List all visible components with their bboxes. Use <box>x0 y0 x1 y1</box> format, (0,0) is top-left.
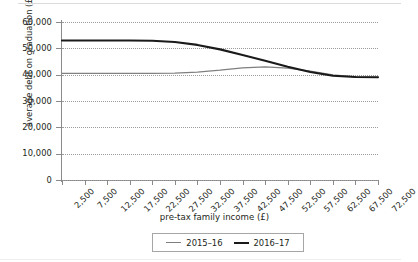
x-tick-32500 <box>197 180 198 185</box>
x-tick-52500 <box>288 180 289 185</box>
plot-area <box>62 22 378 180</box>
x-tick-label-57500: 57,500 <box>322 186 350 214</box>
y-tick-label-20000: 20,000 <box>0 122 52 132</box>
legend-label-1: 2016–17 <box>254 238 290 248</box>
x-tick-label-62500: 62,500 <box>345 186 373 214</box>
x-tick-label-47500: 47,500 <box>277 186 305 214</box>
x-tick-22500 <box>152 180 153 185</box>
y-tick-label-40000: 40,000 <box>0 69 52 79</box>
x-tick-57500 <box>310 180 311 185</box>
x-tick-67500 <box>355 180 356 185</box>
legend-item-0[interactable]: 2015–16 <box>166 238 222 248</box>
x-tick-label-7500: 7,500 <box>95 186 119 210</box>
x-tick-label-22500: 22,500 <box>164 186 192 214</box>
x-tick-72500 <box>378 180 379 185</box>
x-tick-27500 <box>175 180 176 185</box>
x-tick-label-27500: 27,500 <box>187 186 215 214</box>
x-tick-label-37500: 37,500 <box>232 186 260 214</box>
y-tick-label-0: 0 <box>0 175 52 185</box>
x-tick-label-72500: 72,500 <box>390 186 418 214</box>
x-tick-7500 <box>85 180 86 185</box>
x-tick-12500 <box>107 180 108 185</box>
legend-label-0: 2015–16 <box>186 238 222 248</box>
x-tick-47500 <box>265 180 266 185</box>
legend-item-1[interactable]: 2016–17 <box>234 238 290 248</box>
page-scan-artifact-top <box>18 3 401 4</box>
x-tick-label-2500: 2,500 <box>72 186 96 210</box>
x-tick-label-67500: 67,500 <box>367 186 395 214</box>
x-tick-label-42500: 42,500 <box>254 186 282 214</box>
x-tick-label-12500: 12,500 <box>119 186 147 214</box>
legend: 2015–16 2016–17 <box>152 233 304 252</box>
series-layer <box>62 22 378 180</box>
x-tick-42500 <box>243 180 244 185</box>
y-tick-label-30000: 30,000 <box>0 96 52 106</box>
x-tick-label-17500: 17,500 <box>141 186 169 214</box>
legend-line-icon-1 <box>234 242 249 244</box>
y-tick-label-10000: 10,000 <box>0 148 52 158</box>
series-line-2016-17 <box>62 40 378 77</box>
x-tick-17500 <box>130 180 131 185</box>
x-axis-title: pre-tax family income (£) <box>0 212 401 222</box>
x-tick-label-52500: 52,500 <box>299 186 327 214</box>
x-tick-37500 <box>220 180 221 185</box>
x-tick-2500 <box>62 180 63 185</box>
legend-line-icon-0 <box>166 242 181 243</box>
x-tick-62500 <box>333 180 334 185</box>
page-scan-artifact-bottom <box>0 259 401 260</box>
y-tick-label-60000: 60,000 <box>0 17 52 27</box>
x-tick-label-32500: 32,500 <box>209 186 237 214</box>
y-tick-label-50000: 50,000 <box>0 43 52 53</box>
